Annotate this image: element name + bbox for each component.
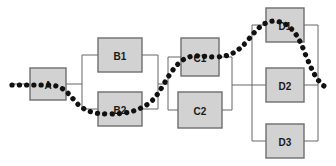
block-d3[interactable]: D3 xyxy=(266,124,304,158)
block-b1-label: B1 xyxy=(114,51,127,62)
block-c2-label: C2 xyxy=(194,106,207,117)
block-b1[interactable]: B1 xyxy=(98,38,142,72)
diagram-canvas: A B1 B2 C1 C2 D1 xyxy=(0,0,336,166)
block-c2[interactable]: C2 xyxy=(178,92,222,128)
reliability-block-diagram: A B1 B2 C1 C2 D1 xyxy=(0,0,336,166)
block-d3-label: D3 xyxy=(279,137,292,148)
block-d2-label: D2 xyxy=(279,81,292,92)
block-d2[interactable]: D2 xyxy=(266,68,304,102)
